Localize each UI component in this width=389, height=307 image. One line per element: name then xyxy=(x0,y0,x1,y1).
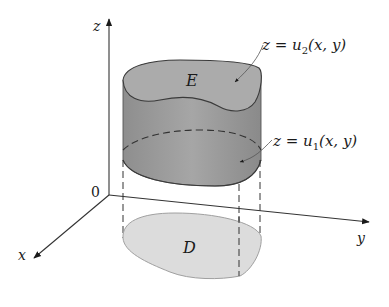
bottom-surface-label: z = u1(x, y) xyxy=(272,132,357,152)
region-label-d: D xyxy=(182,238,196,257)
top-surface-label: z = u2(x, y) xyxy=(261,36,346,56)
z-axis-label: z xyxy=(92,18,101,34)
x-axis xyxy=(34,195,109,258)
type-i-region-diagram: z x y 0 E D z = u2(x, y) z = u1(x, y) xyxy=(0,0,389,307)
solid-label-e: E xyxy=(185,71,198,90)
origin-label: 0 xyxy=(91,184,100,200)
x-axis-label: x xyxy=(18,247,26,263)
y-axis-label: y xyxy=(356,230,366,246)
